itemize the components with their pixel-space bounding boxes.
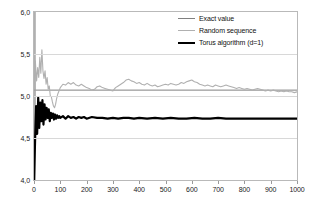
x-tick-mark bbox=[34, 181, 35, 184]
chart-figure: 4,04,55,05,56,0 010020030040050060070080… bbox=[0, 0, 315, 205]
x-axis-labels: 01002003004005006007008009001000 bbox=[0, 0, 315, 205]
legend-swatch bbox=[178, 42, 195, 44]
legend-label: Exact value bbox=[199, 15, 234, 23]
x-tick-mark bbox=[244, 181, 245, 184]
legend: Exact valueRandom sequenceTorus algorith… bbox=[176, 11, 266, 51]
legend-label: Random sequence bbox=[199, 27, 256, 35]
x-tick-mark bbox=[113, 181, 114, 184]
x-tick-mark bbox=[87, 181, 88, 184]
x-tick-mark bbox=[218, 181, 219, 184]
legend-item: Random sequence bbox=[178, 25, 263, 36]
legend-swatch bbox=[178, 18, 195, 19]
x-tick-mark bbox=[139, 181, 140, 184]
legend-label: Torus algorithm (d=1) bbox=[199, 39, 263, 47]
legend-swatch bbox=[178, 30, 195, 31]
legend-item: Torus algorithm (d=1) bbox=[178, 37, 263, 48]
x-tick-mark bbox=[60, 181, 61, 184]
x-tick-label: 1000 bbox=[282, 186, 312, 193]
x-tick-mark bbox=[297, 181, 298, 184]
x-tick-mark bbox=[192, 181, 193, 184]
x-tick-mark bbox=[166, 181, 167, 184]
legend-item: Exact value bbox=[178, 13, 263, 24]
x-tick-mark bbox=[271, 181, 272, 184]
